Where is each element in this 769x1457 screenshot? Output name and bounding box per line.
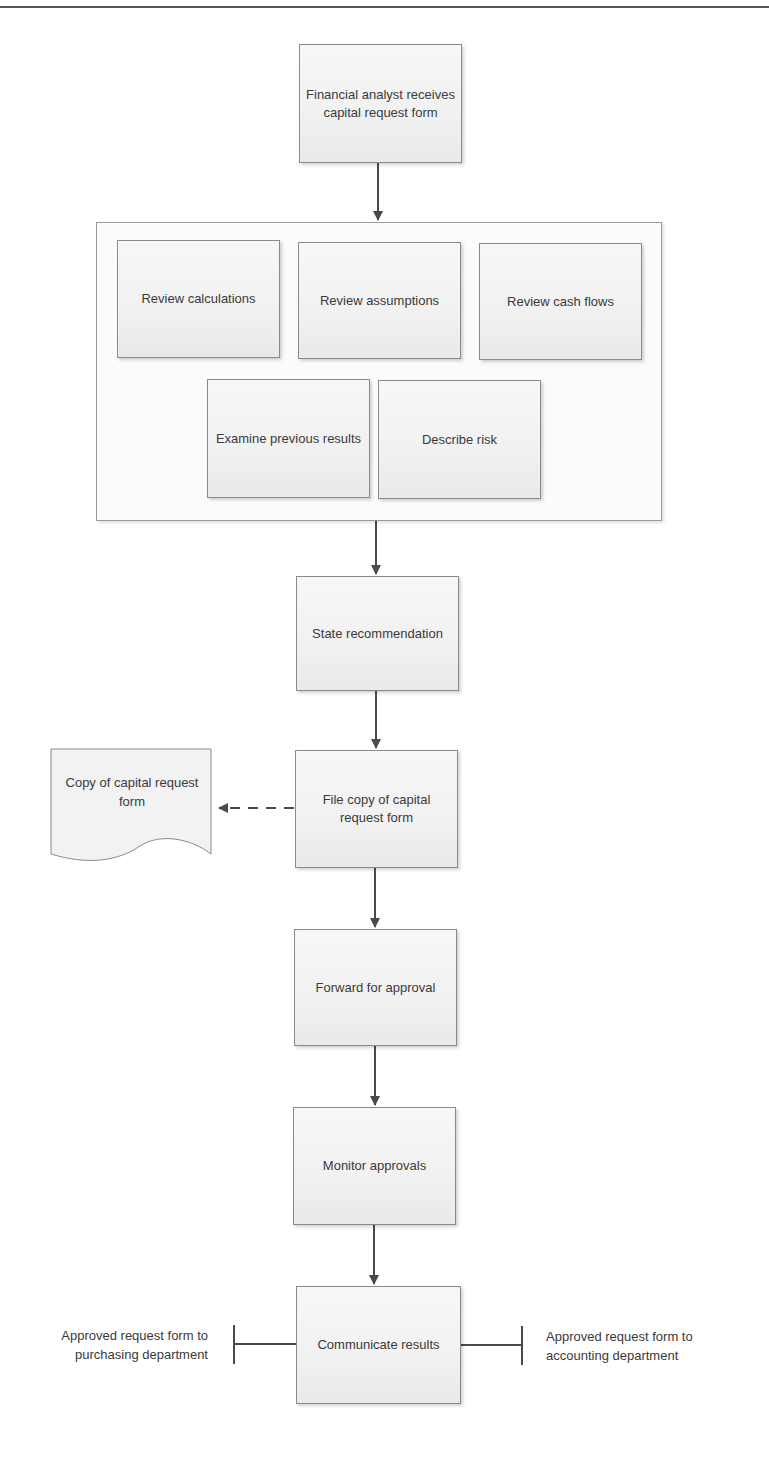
step-label: State recommendation (312, 625, 443, 643)
annotation-accounting-department: Approved request form to accounting depa… (546, 1327, 756, 1365)
step-label: Review assumptions (320, 292, 439, 310)
step-file-copy-of-capital-request-form: File copy of capital request form (295, 750, 458, 868)
step-label: File copy of capital request form (300, 791, 453, 827)
step-monitor-approvals: Monitor approvals (293, 1107, 456, 1225)
step-label: Forward for approval (316, 979, 436, 997)
step-forward-for-approval: Forward for approval (294, 929, 457, 1046)
step-label: Describe risk (422, 431, 497, 449)
step-review-cash-flows: Review cash flows (479, 243, 642, 360)
step-label: Review calculations (141, 290, 255, 308)
step-label: Monitor approvals (323, 1157, 426, 1175)
document-label: Copy of capital request form (52, 773, 212, 811)
step-review-assumptions: Review assumptions (298, 242, 461, 359)
step-label: Communicate results (317, 1336, 439, 1354)
step-communicate-results: Communicate results (296, 1286, 461, 1404)
step-examine-previous-results: Examine previous results (207, 379, 370, 498)
annotation-purchasing-department: Approved request form to purchasing depa… (8, 1326, 208, 1364)
step-financial-analyst-receives-form: Financial analyst receives capital reque… (299, 44, 462, 163)
connectors (0, 0, 769, 1457)
step-review-calculations: Review calculations (117, 240, 280, 358)
step-label: Examine previous results (216, 430, 361, 448)
step-label: Review cash flows (507, 293, 614, 311)
step-state-recommendation: State recommendation (296, 576, 459, 691)
step-describe-risk: Describe risk (378, 380, 541, 499)
step-label: Financial analyst receives capital reque… (304, 86, 457, 122)
